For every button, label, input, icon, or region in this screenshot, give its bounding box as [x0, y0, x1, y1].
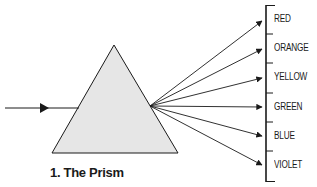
- ray-orange: [150, 49, 262, 106]
- incoming-arrowhead-icon: [40, 103, 49, 113]
- prism-diagram: RED ORANGE YELLOW GREEN BLUE VIOLET 1. T…: [0, 0, 317, 187]
- spectrum-label-blue: BLUE: [274, 130, 295, 142]
- incoming-light-ray: [5, 103, 79, 113]
- spectrum-label-orange: ORANGE: [274, 42, 309, 54]
- ray-yellow: [150, 78, 262, 106]
- spectrum-label-red: RED: [274, 13, 291, 25]
- spectrum-bracket: [266, 5, 275, 182]
- ray-blue: [150, 106, 262, 136]
- spectrum-label-yellow: YELLOW: [274, 71, 307, 83]
- ray-green: [150, 106, 262, 107]
- spectrum-label-green: GREEN: [274, 101, 302, 113]
- ray-red: [150, 21, 262, 106]
- figure-caption: 1. The Prism: [50, 165, 124, 180]
- spectrum-label-violet: VIOLET: [274, 159, 302, 171]
- diagram-canvas: [0, 0, 317, 187]
